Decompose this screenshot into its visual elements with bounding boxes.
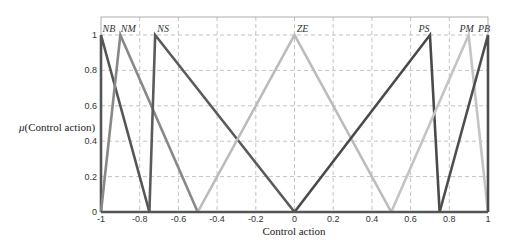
label-ze: ZE [297, 23, 309, 34]
label-ns: NS [156, 23, 169, 34]
y-tick-label: 0.6 [84, 101, 97, 111]
x-tick-label: -0.6 [171, 214, 187, 224]
y-tick-label: 0.4 [84, 136, 97, 146]
label-pm: PM [458, 23, 474, 34]
x-tick-label: -0.8 [132, 214, 148, 224]
x-tick-label: 1 [485, 214, 490, 224]
series-ns-line [149, 35, 294, 212]
x-tick-label: -0.2 [248, 214, 264, 224]
y-tick-label: 0.8 [84, 65, 97, 75]
y-axis-label-text: (Control action) [25, 121, 96, 134]
membership-function-chart: -1-0.8-0.6-0.4-0.200.20.40.60.8100.20.40… [0, 0, 507, 246]
label-nb: NB [102, 23, 116, 34]
x-tick-label: 0.2 [327, 214, 340, 224]
series-ps-line [295, 35, 440, 212]
y-tick-label: 0 [92, 207, 97, 217]
x-tick-label: -0.4 [209, 214, 225, 224]
series-nb-line [101, 35, 149, 212]
x-tick-label: 0.6 [404, 214, 417, 224]
x-tick-label: 0 [292, 214, 297, 224]
x-axis-label: Control action [262, 225, 326, 237]
label-pb: PB [477, 23, 490, 34]
y-tick-label: 1 [92, 30, 97, 40]
label-nm: NM [120, 23, 137, 34]
label-ps: PS [417, 23, 429, 34]
x-tick-label: 0.4 [366, 214, 379, 224]
membership-labels: NBNMNSZEPSPMPB [102, 23, 491, 34]
y-axis-label: μ(Control action) [18, 121, 95, 134]
series-pm-line [391, 35, 488, 212]
x-tick-label: 0.8 [443, 214, 456, 224]
x-tick-label: -1 [97, 214, 105, 224]
y-tick-label: 0.2 [84, 172, 97, 182]
series-pb-line [440, 35, 488, 212]
